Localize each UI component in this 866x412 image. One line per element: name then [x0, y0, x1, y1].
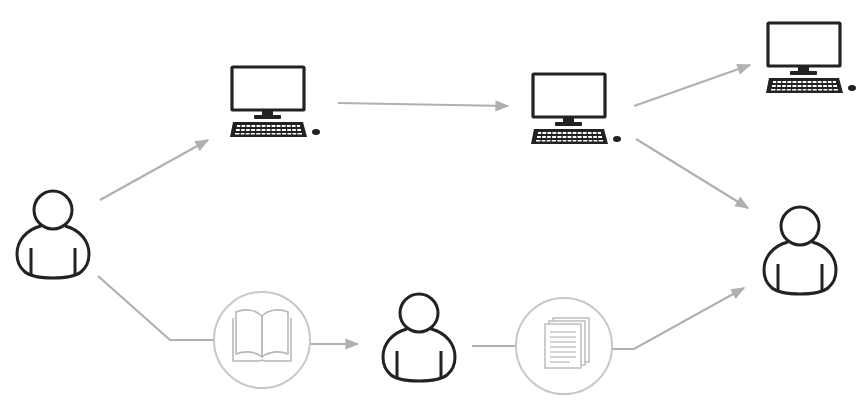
arrow-documents-to-recipient [612, 288, 744, 349]
desktop-computer-icon [230, 67, 320, 137]
documents-node [516, 298, 612, 394]
line-source-to-book [98, 276, 214, 340]
book-node [214, 292, 310, 388]
arrow-source-to-computer-1 [100, 140, 208, 200]
person-icon [764, 207, 836, 294]
arrow-computer-2-to-computer-3 [634, 65, 750, 106]
desktop-computer-icon [531, 74, 621, 144]
arrow-computer-2-to-recipient [636, 139, 748, 208]
arrow-computer-1-to-computer-2 [338, 103, 508, 106]
person-icon [17, 191, 89, 278]
person-icon [383, 294, 455, 381]
document-stack-icon [545, 318, 589, 368]
desktop-computer-icon [766, 23, 856, 93]
flow-diagram [0, 0, 866, 412]
